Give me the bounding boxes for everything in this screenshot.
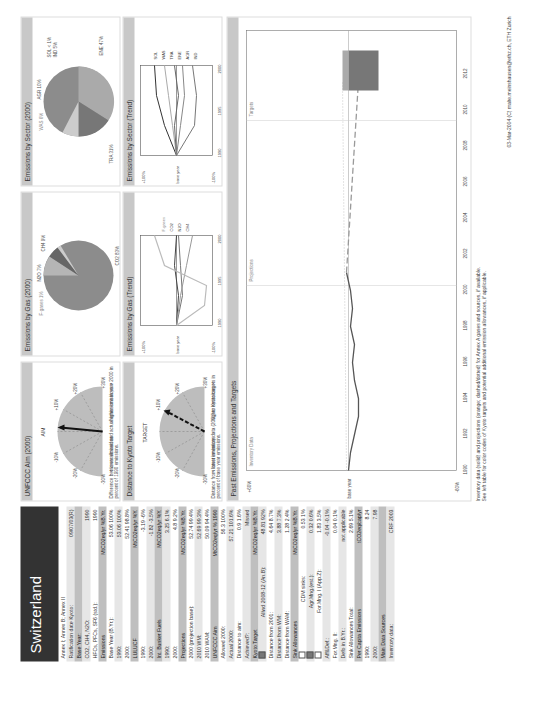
checkbox-icon[interactable] <box>258 651 265 658</box>
row-value: 53.06 100% <box>106 509 114 537</box>
row-label: Distance from 2001: <box>266 612 274 658</box>
table-row: 2000:52.41 98.8% <box>122 506 130 661</box>
svg-text:2000: 2000 <box>216 233 221 243</box>
table-row: HFCs, PFCs, SF6 (std.):1990 <box>90 506 98 661</box>
row-value: MtCO2eq/yr %B.Yr. <box>290 509 298 554</box>
row-value: 50.09 94.4% <box>202 509 210 538</box>
row-value: tCO2eq/cap/yr <box>354 509 362 542</box>
svg-text:WAS 6%: WAS 6% <box>38 112 43 130</box>
target-dial-icon: TARGET -30% -20% -10% +10% +20% +30% < l… <box>134 362 222 500</box>
row-value: 56.3 100% <box>218 509 226 534</box>
svg-text:base year: base year <box>174 165 179 183</box>
row-label: 2000: <box>146 645 154 658</box>
row-value: MtCO2eq/yr % 1990 <box>210 509 218 556</box>
row-value: 1990 <box>82 509 90 521</box>
table-row: 2010 WM:52.69 99.3% <box>194 506 202 661</box>
row-value: Missed <box>242 509 250 525</box>
row-label: 2000: <box>122 645 130 658</box>
checkbox-icon[interactable] <box>306 651 313 658</box>
row-value: 1.83 3.5% <box>314 509 322 532</box>
svg-text:TARGET: TARGET <box>141 422 147 442</box>
svg-text:AGR: AGR <box>184 50 189 59</box>
kyoto-target-panel: Distance to Kyoto Target TARGET -30% -20… <box>122 361 222 501</box>
row-label: Sink Allowances <box>290 621 298 659</box>
table-section-header: EmissionsMtCO2eq/yr %B.Yr. <box>98 506 106 661</box>
panel-title: Emissions by Gas (2000) <box>21 192 32 355</box>
row-value: MtCO2eq/yr %B.Yr. <box>178 509 186 554</box>
table-row: Aff&Def.:-0.04 -0.1% <box>322 506 330 661</box>
table-section-header: Main Data Sources <box>378 506 386 661</box>
table-row: Sink Allowances Total:2.69 5.1% <box>346 506 354 661</box>
row-label: Main Data Sources <box>378 614 386 658</box>
row-value: 7.98 <box>370 509 378 519</box>
row-label: 2000: <box>170 645 178 658</box>
row-value: 1.28 2.4% <box>282 509 290 532</box>
table-section-header: Int. Bunker FuelsMtCO2eq/yr %Y. <box>154 506 162 661</box>
svg-text:+20%: +20% <box>72 382 77 394</box>
table-row: Distance from WM:3.88 7.3% <box>274 506 282 661</box>
svg-text:+10%: +10% <box>53 398 58 410</box>
past-emissions-chart: Inventory Data Projections Targets base … <box>238 17 470 500</box>
table-row: Inventory data:CRF 2003 <box>386 506 394 661</box>
sector-pie-chart: WAS 6% AGR 10% SOL < 1% IND 5% TRA 31% E… <box>32 17 120 185</box>
svg-text:N2O: N2O <box>176 223 181 231</box>
checkbox-icon[interactable] <box>298 651 305 658</box>
row-value: 3.25 6.1% <box>162 509 170 532</box>
table-row: 2010 WAM:50.09 94.4% <box>202 506 210 661</box>
svg-text:TRA 31%: TRA 31% <box>108 144 113 163</box>
row-label: UNFCCC Aim <box>210 626 218 658</box>
svg-text:2006: 2006 <box>462 175 467 186</box>
svg-text:1990: 1990 <box>462 463 467 474</box>
svg-text:1994: 1994 <box>462 391 467 402</box>
svg-text:base year: base year <box>174 335 179 353</box>
table-section-header: LULUCFMtCO2eq/yr %Y. <box>130 506 138 661</box>
row-value: -3.19 -6% <box>138 509 146 532</box>
svg-text:-100%: -100% <box>210 171 215 183</box>
checkbox-icon[interactable] <box>314 651 321 658</box>
table-row: Defo in B.Yr.:not applicable <box>338 506 346 661</box>
row-value: 1990 <box>90 509 98 521</box>
svg-text:F-gases: F-gases <box>160 217 165 231</box>
table-row: Distance to aim:0.9 1.6% <box>234 506 242 661</box>
svg-text:+60%: +60% <box>246 480 251 492</box>
row-label: Distance from WM: <box>274 614 282 658</box>
table-row: Base Year (B.Yr.):53.06 100% <box>106 506 114 661</box>
country-header: Switzerland <box>20 506 58 661</box>
row-label: HFCs, PFCs, SF6 (std.): <box>90 602 98 658</box>
row-label: 2000 (projection base): <box>186 605 194 658</box>
svg-text:-20%: -20% <box>174 467 179 478</box>
svg-text:Projections: Projections <box>248 258 253 281</box>
table-row[interactable]: For.Mng. I (App.Z):1.83 3.5% <box>314 506 322 661</box>
table-section-header: Kyoto TargetMtCO2eq/yr %B.Yr. <box>250 506 258 661</box>
row-value: MtCO2eq/yr %Y. <box>130 509 138 547</box>
table-row[interactable]: CDM sinks:0.53 1% <box>298 506 306 661</box>
country-title: Switzerland <box>26 575 43 653</box>
table-row: 2000:7.98 <box>370 506 378 661</box>
gas-trend-chart: +100% base year -100% 1990 1995 2000 F-g… <box>134 192 222 355</box>
table-row[interactable]: Allwd 2008-12 (An.B):48.81 92% <box>258 506 266 661</box>
svg-text:+100%: +100% <box>140 340 145 353</box>
table-row: 1990:-3.19 -6% <box>138 506 146 661</box>
table-row: 1990:8.24 <box>362 506 370 661</box>
row-label: 2010 WAM: <box>202 631 210 658</box>
row-label: 1990: <box>362 645 370 658</box>
svg-text:2010: 2010 <box>462 103 467 114</box>
svg-text:CH4 9%: CH4 9% <box>40 234 45 251</box>
credit-text: 03-Mar-2004 (C) malte.meinshausen@ethz.c… <box>505 16 511 216</box>
table-row: Annex I; Annex B; Annex II <box>58 506 66 661</box>
svg-text:+30%: +30% <box>100 376 105 388</box>
table-row[interactable]: Agr.Mng.(est.):0.32 0.6% <box>306 506 314 661</box>
row-label: 1990: <box>162 645 170 658</box>
table-row: CO2, CH4, N2O:1990 <box>82 506 90 661</box>
row-label: For.Mng. I (App.Z): <box>314 569 322 613</box>
row-label: Per Capita Emissions <box>354 608 362 658</box>
data-table: Annex I; Annex B; Annex IIRatification d… <box>58 506 394 661</box>
row-label: Emissions <box>98 634 106 658</box>
row-value: 2.69 5.1% <box>346 509 354 532</box>
row-label: Allwd 2008-12 (An.B): <box>258 566 266 616</box>
row-label: Actual 2000: <box>226 629 234 658</box>
aim-dial-icon: AIM -30% -20% -10% +10% +20% +30% < lowe… <box>32 362 120 500</box>
row-value: 3.88 7.3% <box>274 509 282 532</box>
sector-pie-panel: Emissions by Sector (2000) WAS 6% AGR 10… <box>20 16 120 186</box>
row-value: 52.74 99.4% <box>186 509 194 538</box>
